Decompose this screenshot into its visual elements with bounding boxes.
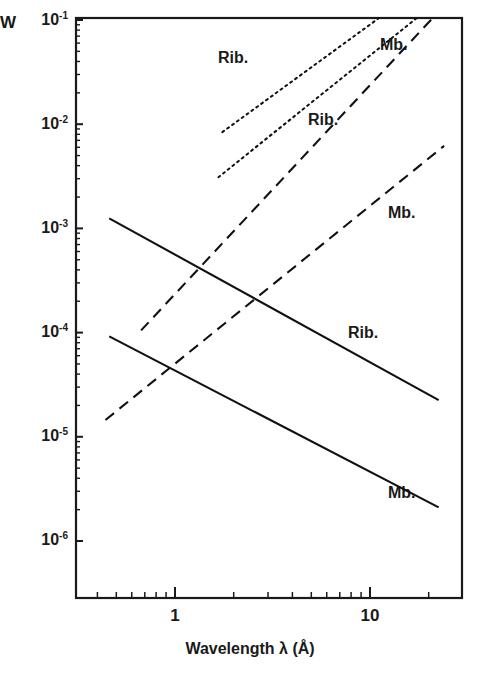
data-curves: [105, 18, 444, 507]
curve-rib-dashed: [141, 18, 433, 330]
plot-area: [0, 0, 484, 679]
curve-mb-dashed: [105, 146, 444, 420]
curve-mb-dotted: [218, 18, 416, 177]
axes-frame: [76, 18, 462, 598]
curve-rib-dotted: [222, 18, 379, 132]
curve-rib-solid: [109, 218, 438, 400]
curve-mb-solid: [109, 336, 438, 507]
axis-ticks: [76, 20, 429, 598]
figure-root: W 10-1 10-2 10-3 10-4 10-5 10-6 1 10 Wav…: [0, 0, 484, 679]
